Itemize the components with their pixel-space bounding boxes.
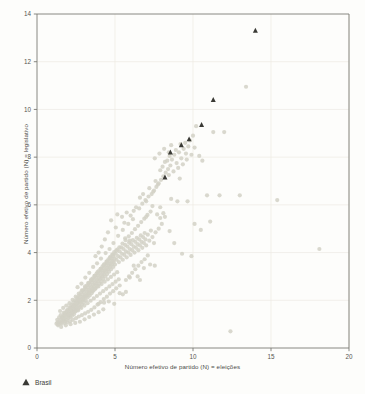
svg-text:0: 0 (35, 353, 39, 360)
y-axis-title-wrapper: Número efetivo de partido (N) = legislat… (14, 2, 32, 367)
x-axis-title: Número efetivo de partido (N) = eleições (0, 363, 365, 370)
scatter-points-others (54, 85, 321, 334)
svg-text:10: 10 (189, 353, 197, 360)
y-axis-title: Número efetivo de partido (N) = legislat… (22, 124, 29, 244)
legend-triangle-icon (22, 378, 30, 386)
scatter-points-brasil (162, 28, 257, 180)
scatter-plot-figure: 0510152002468101214 Número efetivo de pa… (0, 0, 365, 394)
svg-text:15: 15 (267, 353, 275, 360)
plot-canvas: 0510152002468101214 (0, 0, 365, 394)
legend-label: Brasil (35, 379, 52, 386)
svg-text:5: 5 (113, 353, 117, 360)
svg-text:20: 20 (345, 353, 353, 360)
legend: Brasil (22, 378, 52, 386)
